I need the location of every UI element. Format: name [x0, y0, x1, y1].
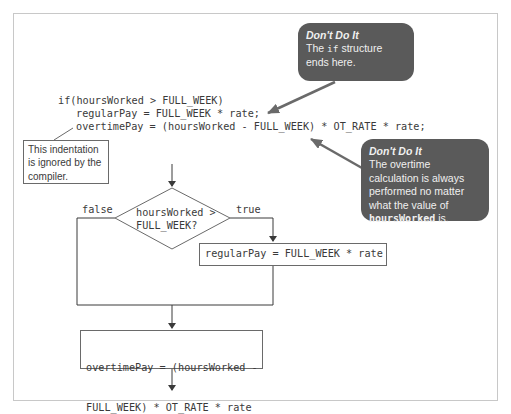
false-label: false: [82, 204, 113, 215]
callout-title: Don't Do It: [369, 145, 481, 158]
note-leader-line: [54, 128, 73, 140]
indentation-note: This indentation is ignored by the compi…: [23, 140, 109, 184]
overtime-pay-process-box: overtimePay = (hoursWorked - FULL_WEEK) …: [80, 330, 263, 369]
code-line-if: if(hoursWorked > FULL_WEEK): [58, 94, 224, 107]
callout-top-arrow: [268, 82, 335, 113]
callout-right-arrow: [311, 139, 362, 168]
code-line-overtime-pay: overtimePay = (hoursWorked - FULL_WEEK) …: [76, 120, 426, 133]
regular-pay-process-box: regularPay = FULL_WEEK * rate: [199, 243, 387, 266]
code-line-regular-pay: regularPay = FULL_WEEK * rate;: [76, 107, 260, 120]
decision-text-line2: FULL_WEEK?: [136, 219, 197, 232]
decision-text-line1: hoursWorked >: [136, 206, 216, 219]
callout-if-structure-ends: Don't Do It The if structure ends here.: [298, 23, 414, 81]
true-label: true: [236, 204, 261, 215]
callout-overtime-always-performed: Don't Do It The overtime calculation is …: [361, 139, 489, 221]
callout-title: Don't Do It: [306, 29, 406, 42]
